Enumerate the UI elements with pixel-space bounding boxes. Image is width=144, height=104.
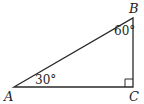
triangle-figure: B C A 60° 30° xyxy=(0,0,144,104)
angle-label-a: 30° xyxy=(35,73,56,87)
vertex-label-b: B xyxy=(128,1,139,16)
vertex-label-a: A xyxy=(3,89,13,104)
right-angle-marker xyxy=(125,79,133,87)
angle-label-b: 60° xyxy=(114,24,135,38)
vertex-label-c: C xyxy=(129,89,139,104)
